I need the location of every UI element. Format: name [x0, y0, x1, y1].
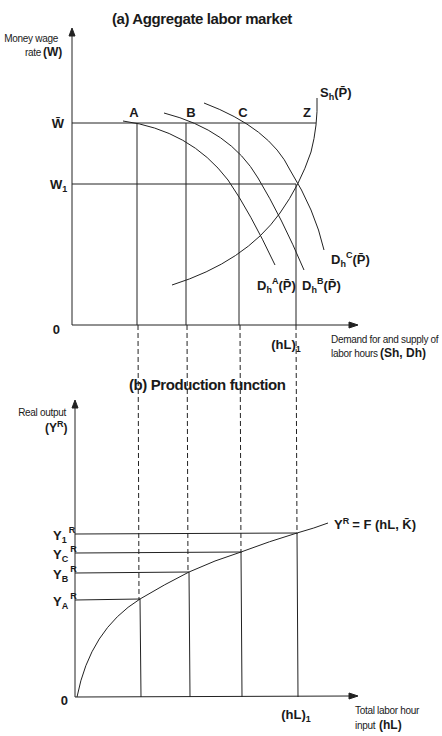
panel-b-x-symbol: (hL)	[379, 718, 402, 732]
panel-a-x-label-2: labor hours	[331, 348, 378, 359]
panel-a-y-symbol: (W)	[43, 45, 62, 59]
panel-b-hl1-label: (hL)1	[281, 707, 311, 724]
point-a-label: A	[129, 105, 139, 120]
panel-a-y-label-1: Money wage	[4, 33, 58, 44]
production-function-curve	[77, 523, 328, 697]
ycr-label: YCR	[53, 544, 77, 564]
w1-label: W1	[50, 177, 67, 194]
point-c-label: C	[238, 105, 248, 120]
panel-b-x-label-2: input	[355, 720, 376, 731]
panel-b-x-arrow-icon	[349, 693, 358, 699]
demand-curve-b	[164, 113, 304, 270]
ybr-label: YBR	[53, 564, 77, 584]
vline-b-c	[241, 552, 242, 697]
yar-line	[75, 599, 140, 600]
panel-b-y-label-1: Real output	[18, 407, 66, 418]
y1r-line	[75, 533, 297, 534]
dash-connector-b	[187, 325, 188, 573]
panel-a-x-symbol: (Sh, Dh)	[380, 346, 426, 360]
vline-b-a	[140, 599, 141, 697]
panel-a-origin: 0	[53, 322, 60, 337]
vline-b-hl1	[297, 533, 298, 697]
dash-connector-a	[138, 325, 139, 600]
point-b-label: B	[186, 105, 195, 120]
panel-b-x-axis	[75, 696, 352, 697]
ycr-line	[75, 552, 241, 553]
panel-a-x-label-1: Demand for and supply of	[331, 334, 439, 345]
supply-curve-label: Sh(P̄)	[320, 85, 352, 102]
panel-b-title: (b) Production function	[129, 376, 286, 393]
demand-b-label: DhB(P̄)	[302, 276, 341, 295]
panel-a-title: (a) Aggregate labor market	[112, 10, 292, 27]
labor-market-diagram: (a) Aggregate labor market Money wage ra…	[0, 0, 442, 736]
demand-a-label: DhA(P̄)	[257, 276, 296, 295]
supply-curve	[172, 98, 317, 285]
y1r-label: Y1R	[53, 525, 76, 545]
panel-a-x-arrow-icon	[349, 322, 358, 328]
vline-b-b	[189, 572, 190, 697]
panel-b-y-symbol: (YR)	[45, 419, 68, 435]
yar-label: YAR	[53, 591, 77, 611]
panel-b-origin: 0	[61, 693, 68, 708]
demand-c-label: DhC(P̄)	[331, 250, 370, 269]
w-bar-label: W̄	[52, 116, 65, 131]
point-z-label: Z	[303, 105, 311, 120]
panel-b-y-arrow-icon	[72, 400, 78, 408]
panel-a-y-arrow-icon	[69, 28, 75, 36]
panel-b-x-label-1: Total labor hour	[355, 705, 420, 716]
dash-connector-c	[240, 325, 241, 553]
production-function-label: YR= F (hL, K̄)	[334, 516, 416, 532]
ybr-line	[75, 572, 189, 573]
demand-curve-c	[204, 103, 324, 250]
dash-connector-hl1	[296, 325, 297, 534]
panel-a-y-label-2: rate	[25, 47, 42, 58]
